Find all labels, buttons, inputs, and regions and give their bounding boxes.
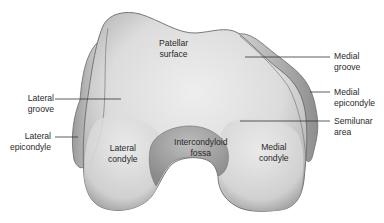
label-intercondyloid-fossa-line1: Intercondyloid xyxy=(174,137,228,148)
label-patellar-surface: Patellar surface xyxy=(159,38,188,59)
label-semilunar-area-line2: area xyxy=(334,127,373,138)
label-patellar-surface-line1: Patellar xyxy=(159,38,188,49)
label-medial-epicondyle-line2: epicondyle xyxy=(334,98,375,109)
label-medial-epicondyle: Medial epicondyle xyxy=(334,87,375,108)
label-lateral-epicondyle: Lateral epicondyle xyxy=(10,131,51,152)
label-lateral-condyle-line1: Lateral xyxy=(108,143,138,154)
label-intercondyloid-fossa-line2: fossa xyxy=(174,148,228,159)
label-semilunar-area: Semilunar area xyxy=(334,116,373,137)
label-semilunar-area-line1: Semilunar xyxy=(334,116,373,127)
label-lateral-epicondyle-line1: Lateral xyxy=(10,131,51,142)
label-lateral-condyle: Lateral condyle xyxy=(108,143,138,164)
label-medial-groove-line1: Medial xyxy=(334,51,360,62)
label-lateral-groove-line1: Lateral xyxy=(28,93,54,104)
label-medial-epicondyle-line1: Medial xyxy=(334,87,375,98)
label-patellar-surface-line2: surface xyxy=(159,49,188,60)
label-lateral-condyle-line2: condyle xyxy=(108,154,138,165)
femur-diagram: Patellar surface Lateral groove Lateral … xyxy=(0,0,384,223)
femur-illustration xyxy=(0,0,384,223)
label-medial-groove-line2: groove xyxy=(334,62,360,73)
label-medial-groove: Medial groove xyxy=(334,51,360,72)
label-lateral-groove-line2: groove xyxy=(28,104,54,115)
label-intercondyloid-fossa: Intercondyloid fossa xyxy=(174,137,228,158)
label-medial-condyle-line2: condyle xyxy=(259,153,289,164)
label-lateral-groove: Lateral groove xyxy=(28,93,54,114)
label-lateral-epicondyle-line2: epicondyle xyxy=(10,142,51,153)
medial-condyle-shape xyxy=(217,118,303,211)
label-medial-condyle-line1: Medial xyxy=(259,142,289,153)
label-medial-condyle: Medial condyle xyxy=(259,142,289,163)
